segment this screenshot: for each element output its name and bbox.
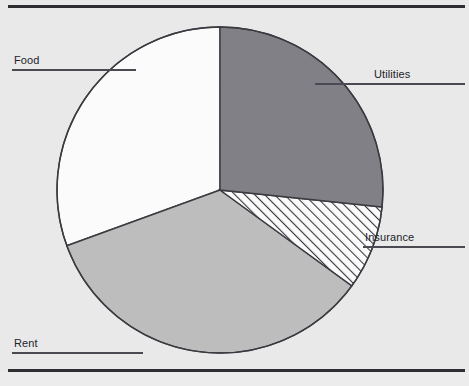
pie-label-insurance: Insurance: [365, 231, 414, 243]
pie-chart-figure: Food Utilities Insurance Rent: [0, 0, 469, 386]
pie-label-utilities: Utilities: [374, 68, 410, 80]
footer-strip: [0, 372, 469, 386]
pie-label-food: Food: [14, 54, 39, 66]
leader-line-food: [12, 69, 136, 71]
leader-line-rent: [12, 352, 143, 354]
pie-label-rent: Rent: [14, 337, 38, 349]
pie-chart-svg: [0, 10, 469, 368]
chart-plot-area: Food Utilities Insurance Rent: [0, 10, 469, 368]
top-rule: [8, 5, 465, 8]
pie-slice-utilities[interactable]: [220, 27, 383, 207]
leader-line-utilities: [315, 83, 465, 85]
leader-line-insurance: [363, 246, 465, 248]
